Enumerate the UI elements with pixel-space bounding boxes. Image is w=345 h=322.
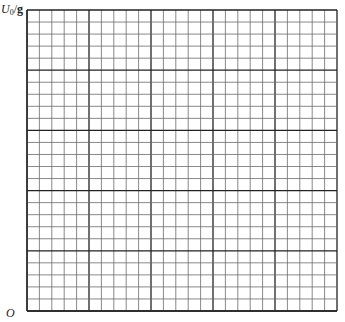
graph-paper-grid — [0, 0, 345, 322]
